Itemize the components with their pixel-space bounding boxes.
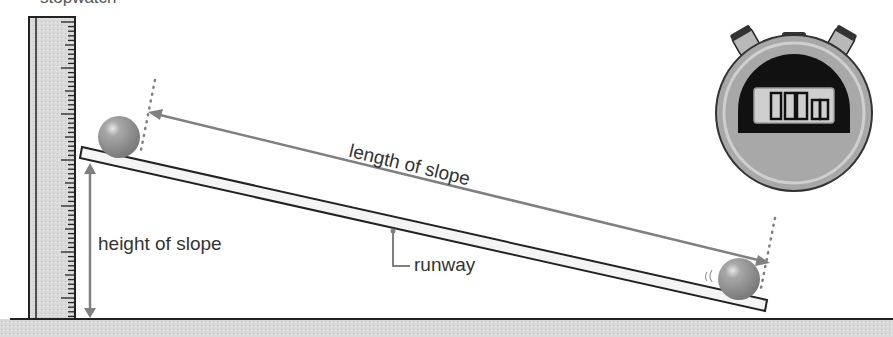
ruler — [29, 17, 75, 319]
end-guide — [760, 218, 775, 293]
start-guide — [140, 80, 155, 155]
height-of-slope-label: height of slope — [98, 233, 222, 255]
height-arrow — [84, 163, 96, 318]
ball-start — [98, 116, 140, 158]
ground — [0, 319, 893, 337]
runway-label: runway — [414, 254, 475, 276]
stopwatch — [716, 24, 872, 191]
runway-pointer — [391, 229, 411, 267]
